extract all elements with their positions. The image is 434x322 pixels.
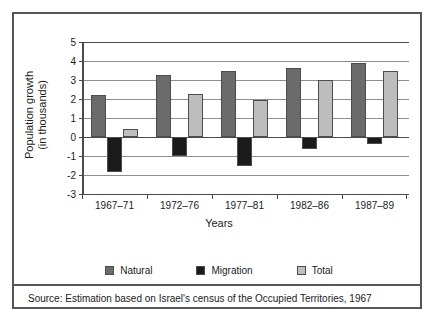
bar-natural — [156, 75, 171, 137]
y-axis-tick-label: 5 — [70, 37, 76, 48]
y-axis-tick-label: 0 — [70, 132, 76, 143]
source-divider — [14, 284, 420, 286]
bar-total — [253, 100, 268, 137]
bar-total — [123, 129, 138, 137]
bar-natural — [351, 63, 366, 137]
y-axis-tick-label: -1 — [67, 151, 76, 162]
y-axis-title-line2: (in thousands) — [36, 35, 49, 195]
plot-area: Population growth (in thousands) 543210-… — [14, 14, 424, 259]
y-axis-tick-label: -3 — [67, 189, 76, 200]
bar-group — [342, 42, 407, 194]
bar-natural — [91, 95, 106, 137]
bar-migration — [237, 137, 252, 166]
x-axis-tick-mark — [342, 194, 343, 199]
y-axis-title-line1: Population growth — [23, 35, 36, 195]
legend-item-migration: Migration — [196, 265, 252, 276]
y-axis-tick-label: 2 — [70, 94, 76, 105]
legend-swatch-migration — [196, 266, 205, 275]
legend-swatch-natural — [105, 266, 114, 275]
y-axis-tick-label: 1 — [70, 113, 76, 124]
legend-label: Total — [312, 265, 333, 276]
x-axis-tick-label: 1982–86 — [290, 200, 329, 211]
bar-group — [82, 42, 147, 194]
x-axis-tick-label: 1987–89 — [355, 200, 394, 211]
y-axis-tick-label: -2 — [67, 170, 76, 181]
legend-item-total: Total — [297, 265, 333, 276]
bar-migration — [107, 137, 122, 172]
bar-migration — [172, 137, 187, 156]
x-axis-tick-mark — [277, 194, 278, 199]
bars-layer — [82, 42, 407, 194]
bar-group — [212, 42, 277, 194]
x-axis-tick-labels: 1967–711972–761977–811982–861987–89 — [82, 200, 407, 216]
bar-migration — [367, 137, 382, 144]
x-axis-tick-mark — [406, 194, 407, 199]
bar-total — [188, 94, 203, 137]
x-axis-tick-label: 1967–71 — [95, 200, 134, 211]
x-axis-title: Years — [14, 217, 424, 229]
legend-label: Migration — [211, 265, 252, 276]
legend-item-natural: Natural — [105, 265, 152, 276]
chart-figure: Population growth (in thousands) 543210-… — [12, 12, 422, 309]
bar-natural — [221, 71, 236, 137]
bar-total — [318, 80, 333, 137]
legend-swatch-total — [297, 266, 306, 275]
chart-legend: NaturalMigrationTotal — [14, 260, 424, 280]
x-axis-tick-label: 1972–76 — [160, 200, 199, 211]
y-axis-title: Population growth (in thousands) — [23, 35, 49, 195]
x-axis-tick-label: 1977–81 — [225, 200, 264, 211]
legend-label: Natural — [120, 265, 152, 276]
x-axis-tick-marks — [82, 194, 407, 199]
bar-natural — [286, 68, 301, 137]
bar-total — [383, 71, 398, 138]
y-axis-tick-label: 3 — [70, 75, 76, 86]
bar-migration — [302, 137, 317, 149]
bar-group — [277, 42, 342, 194]
x-axis-tick-mark — [147, 194, 148, 199]
x-axis-tick-mark — [212, 194, 213, 199]
x-axis-tick-mark — [82, 194, 83, 199]
y-axis-tick-label: 4 — [70, 56, 76, 67]
bar-group — [147, 42, 212, 194]
source-note: Source: Estimation based on Israel's cen… — [28, 293, 372, 304]
